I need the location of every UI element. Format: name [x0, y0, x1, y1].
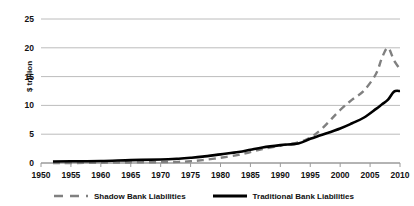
y-axis-tick-label: 5: [8, 129, 34, 139]
y-axis-tick-label: 10: [8, 100, 34, 110]
x-axis-tick-label: 1990: [265, 170, 295, 180]
x-axis-tick-label: 2005: [355, 170, 385, 180]
x-axis-tick-label: 1985: [235, 170, 265, 180]
x-axis-tick-label: 1975: [176, 170, 206, 180]
y-axis-tick-label: 15: [8, 72, 34, 82]
legend-label-shadow-bank: Shadow Bank Liabilities: [94, 192, 186, 201]
y-axis-tick-label: 20: [8, 43, 34, 53]
x-axis-tick-label: 1970: [146, 170, 176, 180]
x-axis-tick-label: 1965: [116, 170, 146, 180]
x-axis-tick-label: 1980: [206, 170, 236, 180]
legend-item-traditional-bank: Traditional Bank Liabilities: [212, 191, 354, 201]
y-axis-tick-label: 0: [8, 158, 34, 168]
x-axis-tick-label: 1950: [26, 170, 56, 180]
x-axis-tick-label: 1955: [56, 170, 86, 180]
x-axis-tick-label: 1995: [295, 170, 325, 180]
solid-line-swatch-icon: [212, 191, 248, 201]
x-axis-tick-label: 2010: [385, 170, 414, 180]
series-line-traditional-bank: [53, 91, 400, 162]
x-axis-tick-label: 1960: [86, 170, 116, 180]
y-axis-tick-label: 25: [8, 14, 34, 24]
dashed-line-swatch-icon: [53, 191, 89, 201]
gridlines: [41, 19, 400, 163]
x-axis-tick-label: 2000: [325, 170, 355, 180]
legend-item-shadow-bank: Shadow Bank Liabilities: [53, 191, 186, 201]
chart-legend: Shadow Bank Liabilities Traditional Bank…: [0, 186, 407, 206]
legend-label-traditional-bank: Traditional Bank Liabilities: [253, 192, 354, 201]
